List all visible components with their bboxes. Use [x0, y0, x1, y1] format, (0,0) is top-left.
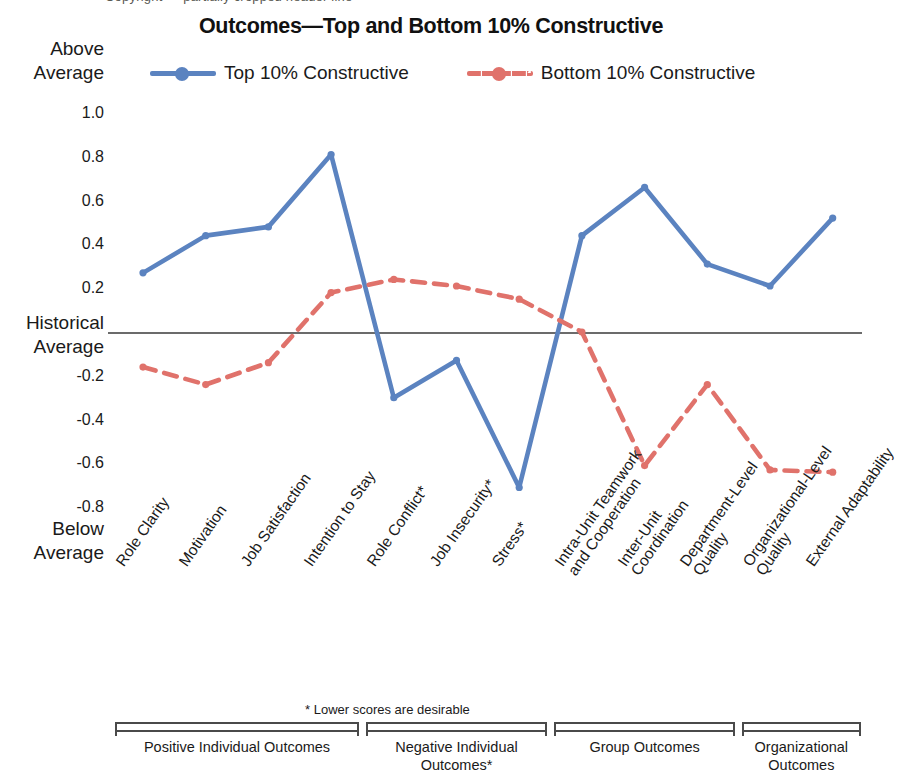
- data-point[interactable]: [202, 381, 209, 388]
- group-bracket-label: Organizational Outcomes: [742, 738, 861, 774]
- data-point[interactable]: [704, 261, 711, 268]
- data-point[interactable]: [202, 232, 209, 239]
- group-bracket-label: Positive Individual Outcomes: [115, 738, 359, 756]
- data-point[interactable]: [453, 357, 460, 364]
- data-point[interactable]: [453, 282, 460, 289]
- data-point[interactable]: [328, 151, 335, 158]
- data-point[interactable]: [390, 276, 397, 283]
- group-bracket-label: Group Outcomes: [554, 738, 735, 756]
- data-point[interactable]: [578, 232, 585, 239]
- series-line-bottom10: [143, 279, 833, 472]
- data-point[interactable]: [516, 296, 523, 303]
- data-point[interactable]: [766, 282, 773, 289]
- data-point[interactable]: [328, 289, 335, 296]
- data-point[interactable]: [516, 484, 523, 491]
- series-line-top10: [143, 155, 833, 488]
- group-bracket: [554, 722, 735, 736]
- data-point[interactable]: [139, 363, 146, 370]
- data-point[interactable]: [390, 394, 397, 401]
- data-point[interactable]: [139, 269, 146, 276]
- data-point[interactable]: [265, 223, 272, 230]
- data-point[interactable]: [704, 381, 711, 388]
- group-bracket: [742, 722, 861, 736]
- group-bracket-label: Negative Individual Outcomes*: [366, 738, 547, 774]
- data-point[interactable]: [578, 328, 585, 335]
- data-point[interactable]: [265, 359, 272, 366]
- group-bracket: [115, 722, 359, 736]
- data-point[interactable]: [641, 184, 648, 191]
- footnote-lower-scores: * Lower scores are desirable: [305, 702, 470, 717]
- data-point[interactable]: [829, 215, 836, 222]
- group-bracket: [366, 722, 547, 736]
